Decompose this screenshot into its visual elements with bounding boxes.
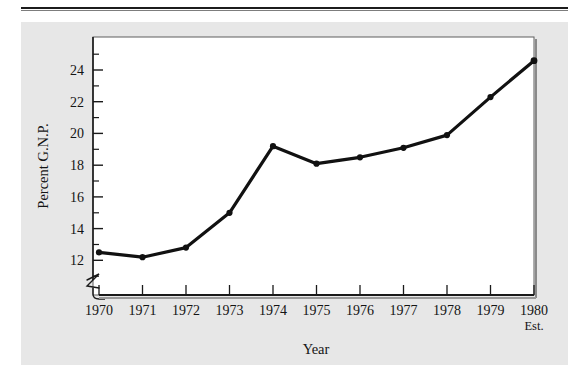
data-point-1976 [357,154,363,160]
data-point-1978 [444,132,450,138]
x-tick-label: 1979 [477,303,505,318]
top-rule-thin [21,10,568,11]
top-rule-thick [21,7,568,9]
data-point-1974 [270,143,276,149]
data-point-1971 [139,254,145,260]
data-point-1979 [487,94,493,100]
y-axis-tick-labels: 24 22 20 18 16 14 12 [70,63,84,268]
x-tick-label: 1972 [172,303,200,318]
x-tick-label: 1976 [346,303,374,318]
data-point-1970 [96,249,102,255]
x-axis-tick-labels: 1970 1971 1972 1973 1974 1975 1976 1977 … [85,303,548,333]
x-tick-label: 1973 [216,303,244,318]
data-point-1973 [226,210,232,216]
data-point-1980 [531,57,538,64]
y-tick-label: 16 [70,190,84,205]
x-tick-label: 1974 [259,303,287,318]
x-tick-sublabel-est: Est. [524,319,543,333]
x-tick-label: 1978 [433,303,461,318]
y-axis-title: Percent G.N.P. [35,123,51,208]
y-tick-label: 12 [70,253,84,268]
data-point-1972 [183,245,189,251]
data-point-1977 [400,145,406,151]
y-tick-label: 14 [70,222,84,237]
plot-area-background [93,37,534,295]
y-tick-label: 18 [70,158,84,173]
x-tick-label: 1977 [390,303,418,318]
x-tick-label: 1980 [520,303,548,318]
y-tick-label: 24 [70,63,84,78]
y-tick-label: 20 [70,126,84,141]
data-point-1975 [313,161,319,167]
x-axis-title: Year [303,341,330,357]
y-tick-label: 22 [70,95,84,110]
chart-figure-panel: 24 22 20 18 16 14 12 Percent G.N.P. [21,22,568,365]
figure-page: 24 22 20 18 16 14 12 Percent G.N.P. [0,0,588,386]
line-chart: 24 22 20 18 16 14 12 Percent G.N.P. [21,22,568,365]
x-tick-label: 1970 [85,303,113,318]
x-tick-label: 1971 [129,303,157,318]
x-tick-label: 1975 [303,303,331,318]
